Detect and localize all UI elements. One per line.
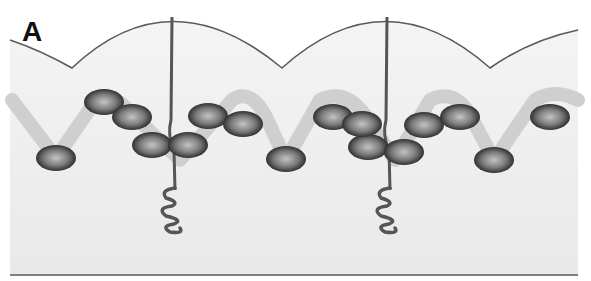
diagram-figure: A — [0, 0, 591, 281]
bead — [36, 145, 76, 171]
panel-label: A — [22, 18, 42, 46]
bead — [440, 104, 480, 130]
diagram-canvas — [0, 0, 591, 281]
bead — [112, 104, 152, 130]
bead — [384, 139, 424, 165]
bead — [348, 134, 388, 160]
bead — [132, 132, 172, 158]
bead — [474, 147, 514, 173]
bead — [188, 103, 228, 129]
bead — [266, 146, 306, 172]
bead — [342, 111, 382, 137]
bead — [168, 132, 208, 158]
bead — [223, 111, 263, 137]
bead — [530, 104, 570, 130]
bead — [404, 112, 444, 138]
